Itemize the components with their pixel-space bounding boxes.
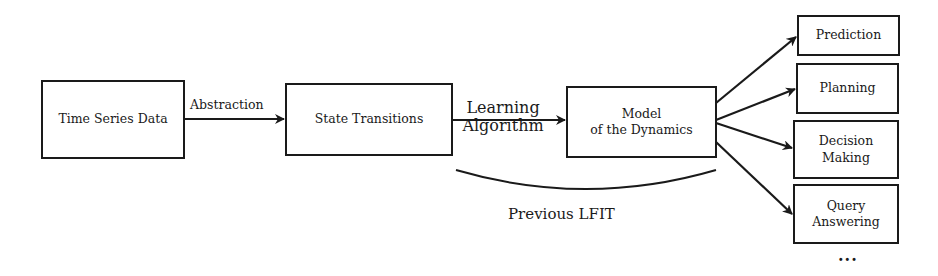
node-label-line1: Decision: [819, 133, 873, 149]
node-label: Planning: [819, 80, 875, 96]
node-label-line2: of the Dynamics: [590, 122, 692, 138]
edge-label-line1: Learning: [458, 99, 548, 117]
node-state-transitions: State Transitions: [285, 83, 453, 156]
node-label-line2: Answering: [812, 214, 880, 230]
node-time-series-data: Time Series Data: [41, 80, 185, 159]
edge-label-abstraction: Abstraction: [190, 97, 264, 112]
edge-label-line2: Algorithm: [458, 117, 548, 135]
node-decision-making: Decision Making: [793, 120, 899, 179]
node-label: State Transitions: [315, 111, 424, 127]
ellipsis-more-uses: ...: [838, 246, 858, 265]
arrow-to-decision: [716, 123, 792, 148]
node-label-line1: Query: [812, 198, 880, 214]
node-label-line2: Making: [819, 150, 873, 166]
node-query-answering: Query Answering: [793, 184, 899, 244]
previous-lfit-brace: [456, 170, 716, 189]
node-label: Prediction: [816, 27, 881, 43]
node-label-line1: Model: [590, 106, 692, 122]
node-label: Time Series Data: [58, 111, 167, 127]
node-model-of-dynamics: Model of the Dynamics: [566, 86, 717, 158]
node-prediction: Prediction: [797, 15, 900, 56]
annotation-previous-lfit: Previous LFIT: [508, 205, 615, 223]
arrow-to-query: [716, 142, 792, 214]
node-planning: Planning: [796, 63, 899, 114]
edge-label-learning-algorithm: Learning Algorithm: [458, 99, 548, 136]
